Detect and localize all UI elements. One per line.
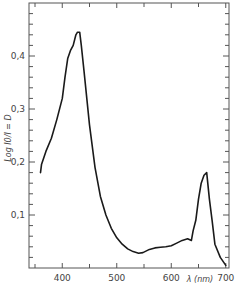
y-tick-label: 0,3	[11, 104, 25, 114]
y-tick-label: 0,4	[11, 51, 26, 61]
y-axis-title: Log I0/I = D	[4, 114, 13, 161]
plot-frame	[29, 3, 229, 268]
absorbance-curve	[41, 32, 226, 265]
absorption-spectrum-chart: 400500600700 0,10,20,30,4 λ (nm) Log I0/…	[0, 0, 237, 293]
y-tick-label: 0,1	[11, 210, 25, 220]
x-axis-title: λ (nm)	[186, 275, 213, 284]
x-tick-label: 600	[163, 273, 180, 283]
x-axis-ticks	[35, 3, 226, 268]
x-tick-label: 500	[108, 273, 125, 283]
y-axis-ticks	[29, 14, 229, 258]
x-tick-label: 400	[54, 273, 71, 283]
x-tick-label: 700	[217, 273, 234, 283]
